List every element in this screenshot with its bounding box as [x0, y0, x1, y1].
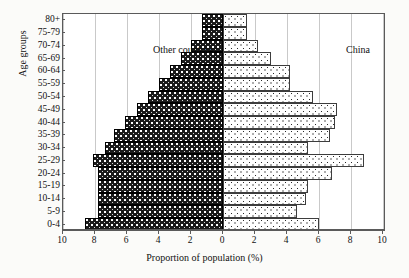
x-axis-tick-label: 2	[188, 235, 193, 245]
pyramid-row	[63, 27, 384, 40]
y-axis-tick	[62, 160, 65, 161]
bar-rows	[63, 14, 384, 229]
y-axis-tick	[62, 224, 65, 225]
y-axis-tick-label: 30-34	[18, 142, 60, 152]
bar-other-countries	[98, 205, 223, 218]
y-axis-tick-label: 20-24	[18, 168, 60, 178]
bar-other-countries	[98, 193, 223, 206]
x-axis-tick-label: 2	[252, 235, 257, 245]
bar-china	[223, 193, 306, 206]
bar-other-countries	[93, 154, 223, 167]
y-axis-tick-label: 45-49	[18, 104, 60, 114]
bar-china	[223, 65, 290, 78]
x-axis-title: Proportion of population (%)	[0, 252, 409, 263]
y-axis-tick	[62, 96, 65, 97]
bar-other-countries	[202, 27, 223, 40]
pyramid-row	[63, 205, 384, 218]
bar-china	[223, 167, 332, 180]
y-axis-tick	[62, 19, 65, 20]
bar-china	[223, 129, 330, 142]
pyramid-row	[63, 180, 384, 193]
bar-other-countries	[170, 65, 223, 78]
y-axis-tick	[62, 173, 65, 174]
x-axis-tick-label: 6	[316, 235, 321, 245]
y-axis-tick-label: 25-29	[18, 155, 60, 165]
y-axis-tick-label: 5-9	[18, 206, 60, 216]
y-axis-tick	[62, 147, 65, 148]
bar-china	[223, 78, 290, 91]
pyramid-row	[63, 218, 384, 230]
y-axis-tick	[62, 198, 65, 199]
bar-other-countries	[125, 116, 223, 129]
bar-other-countries	[105, 142, 223, 155]
bar-china	[223, 40, 258, 53]
x-axis-line	[62, 230, 385, 231]
y-axis-tick	[62, 45, 65, 46]
y-axis-tick-labels: 0-45-910-1415-1920-2425-2930-3435-3940-4…	[14, 13, 60, 230]
bar-china	[223, 103, 337, 116]
y-axis-tick-label: 70-74	[18, 40, 60, 50]
y-axis-tick-label: 75-79	[18, 27, 60, 37]
bar-other-countries	[98, 167, 223, 180]
y-axis-tick-label: 15-19	[18, 180, 60, 190]
x-axis-tick-label: 10	[57, 235, 67, 245]
pyramid-row	[63, 65, 384, 78]
bar-china	[223, 142, 308, 155]
x-axis-tick	[190, 230, 191, 234]
bar-other-countries	[137, 103, 223, 116]
y-axis-tick-label: 35-39	[18, 129, 60, 139]
bar-china	[223, 91, 313, 104]
bar-other-countries	[114, 129, 223, 142]
x-axis-tick	[318, 230, 319, 234]
y-axis-tick-label: 55-59	[18, 78, 60, 88]
pyramid-row	[63, 116, 384, 129]
x-axis-tick	[382, 230, 383, 234]
y-axis-tick	[62, 58, 65, 59]
y-axis-tick	[62, 83, 65, 84]
x-axis-tick	[222, 230, 223, 234]
bar-other-countries	[202, 14, 223, 27]
plot-area: Other countries China	[62, 13, 385, 230]
pyramid-row	[63, 14, 384, 27]
y-axis-tick-label: 40-44	[18, 117, 60, 127]
y-axis-tick-label: 50-54	[18, 91, 60, 101]
y-axis-tick	[62, 70, 65, 71]
x-axis-tick	[62, 230, 63, 234]
pyramid-row	[63, 142, 384, 155]
y-axis-tick	[62, 109, 65, 110]
bar-china	[223, 205, 297, 218]
x-axis-tick-label: 4	[156, 235, 161, 245]
x-axis-tick-label: 8	[348, 235, 353, 245]
pyramid-row	[63, 129, 384, 142]
bar-other-countries	[159, 78, 223, 91]
y-axis-tick-label: 10-14	[18, 193, 60, 203]
pyramid-row	[63, 91, 384, 104]
y-axis-tick-label: 60-64	[18, 65, 60, 75]
pyramid-row	[63, 167, 384, 180]
y-axis-tick	[62, 185, 65, 186]
pyramid-row	[63, 154, 384, 167]
bar-china	[223, 52, 271, 65]
series-label-other-countries: Other countries	[153, 44, 215, 55]
x-axis-tick-label: 8	[92, 235, 97, 245]
x-axis-tick	[254, 230, 255, 234]
pyramid-row	[63, 193, 384, 206]
bar-china	[223, 27, 247, 40]
bar-china	[223, 116, 335, 129]
y-axis-tick	[62, 32, 65, 33]
x-axis-tick-label: 6	[124, 235, 129, 245]
y-axis-tick	[62, 122, 65, 123]
x-axis-tick	[94, 230, 95, 234]
bar-china	[223, 218, 319, 230]
pyramid-row	[63, 103, 384, 116]
y-axis-tick	[62, 211, 65, 212]
y-axis-tick-label: 80+	[18, 14, 60, 24]
pyramid-row	[63, 40, 384, 53]
x-axis-tick	[126, 230, 127, 234]
x-axis-tick	[350, 230, 351, 234]
x-axis-tick-label: 10	[377, 235, 387, 245]
x-axis-tick-label: 0	[220, 235, 225, 245]
pyramid-row	[63, 78, 384, 91]
y-axis-tick	[62, 134, 65, 135]
pyramid-row	[63, 52, 384, 65]
